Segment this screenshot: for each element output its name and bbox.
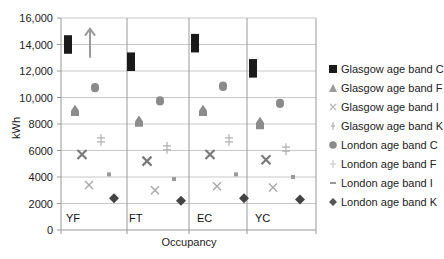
y-axis-ticks: 0200040006000800010,00012,00014,00016,00… [19,12,61,236]
legend-label: London age band K [341,196,437,208]
plus-marker [225,134,233,146]
y-tick-label: 12,000 [19,65,53,77]
y-axis-label: kWh [10,117,22,139]
plus-marker [97,134,105,146]
triangle-marker [71,105,79,116]
circle-marker-icon [328,140,338,150]
x-marker [269,184,277,192]
dash-marker [234,172,238,176]
legend-label: Glasgow age band C [341,63,444,75]
legend-item: Glasgow age band C [328,59,444,78]
data-points [64,34,305,206]
panel-label-yc: YC [255,212,270,224]
glasgow-c-marker [127,52,135,71]
legend-item: London age band F [328,154,444,173]
dash-marker [172,177,176,181]
legend-label: Glasgow age band K [341,120,443,132]
square-marker-icon [328,64,338,74]
x-marker [143,157,152,166]
bar-marker-icon [328,121,338,131]
x-axis-label: Occupancy [161,236,217,248]
y-tick-label: 10,000 [19,92,53,104]
x-marker [151,186,159,194]
circle-marker [91,83,99,92]
x-marker-icon [328,102,338,112]
annotations [85,29,95,58]
triangle-marker-icon [328,83,338,93]
glasgow-c-marker [249,59,257,78]
legend-label: Glasgow age band F [341,82,443,94]
triangle-marker [135,115,143,126]
legend-label: London age band I [341,177,433,189]
legend-label: London age band C [341,139,438,151]
plus-marker-icon [328,159,338,169]
legend-item: Glasgow age band F [328,78,444,97]
legend-item: London age band C [328,135,444,154]
y-tick-label: 6000 [29,145,53,157]
diamond-marker [176,196,186,206]
x-marker [213,182,221,190]
legend-item: Glasgow age band K [328,116,444,135]
glasgow-c-marker [191,34,199,53]
panel-label-ft: FT [129,212,143,224]
dash-marker [291,175,295,179]
y-tick-label: 2000 [29,198,53,210]
y-tick-label: 8000 [29,118,53,130]
x-marker [206,150,215,159]
y-tick-label: 0 [47,224,53,236]
legend-item: Glasgow age band I [328,97,444,116]
glasgow-c-marker [64,35,72,54]
diamond-marker [109,193,119,203]
panel-label-yf: YF [66,212,80,224]
plus-marker [282,143,290,155]
legend-label: London age band F [341,158,436,170]
circle-marker [219,82,227,91]
y-tick-label: 16,000 [19,12,53,24]
x-marker [78,150,87,159]
circle-marker [156,96,164,105]
circle-marker [276,99,284,108]
x-marker [262,155,271,164]
dash-marker [107,172,111,176]
triangle-marker [199,105,207,116]
chart-legend: Glasgow age band CGlasgow age band FGlas… [328,59,444,211]
legend-item: London age band I [328,173,444,192]
plus-marker [163,142,171,154]
diamond-marker-icon [328,197,338,207]
legend-item: London age band K [328,192,444,211]
legend-label: Glasgow age band I [341,101,439,113]
x-marker [85,181,93,189]
y-tick-label: 4000 [29,171,53,183]
dash-marker-icon [328,178,338,188]
triangle-marker [256,117,264,130]
panel-label-ec: EC [197,212,212,224]
y-tick-label: 14,000 [19,39,53,51]
